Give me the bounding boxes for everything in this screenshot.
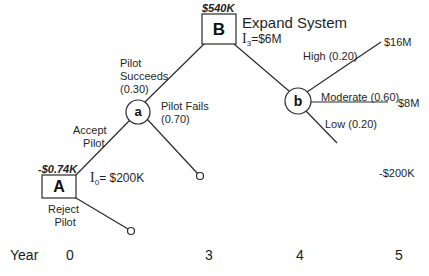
- node-b-chance-label: b: [285, 93, 311, 109]
- terminal-pilot-fails: [197, 173, 204, 180]
- reject-pilot-branch: [76, 198, 128, 229]
- year-tick-3: 3: [205, 247, 213, 263]
- high-label: High (0.20): [303, 50, 357, 63]
- pilot-fails-label: Pilot Fails(0.70): [161, 100, 209, 126]
- year-tick-0: 0: [66, 247, 74, 263]
- node-b-decision-label: B: [202, 20, 236, 40]
- expand-system-title: Expand System: [242, 14, 347, 31]
- high-payoff: $16M: [384, 36, 412, 49]
- node-b-value: $540K: [202, 2, 234, 14]
- node-a-value: -$0.74K: [38, 163, 77, 175]
- node-a-chance-label: a: [126, 104, 150, 119]
- pilot-fails-branch: [147, 119, 198, 174]
- low-payoff: -$200K: [379, 167, 414, 180]
- node-a-decision-label: A: [42, 178, 76, 196]
- year-tick-4: 4: [296, 247, 304, 263]
- reject-pilot-label: RejectPilot: [48, 203, 79, 229]
- year-tick-5: 5: [395, 247, 403, 263]
- accept-pilot-label: AcceptPilot: [73, 124, 107, 150]
- moderate-label: Moderate (0.60): [321, 91, 399, 104]
- pilot-succeeds-label: PilotSucceeds(0.30): [120, 57, 168, 96]
- investment-i0: I0= $200K: [90, 170, 144, 187]
- moderate-payoff: $8M: [398, 97, 419, 110]
- tree-lines: [0, 0, 429, 276]
- investment-i3: I3=$6M: [242, 31, 281, 48]
- terminal-reject-pilot: [128, 228, 135, 235]
- low-label: Low (0.20): [325, 118, 377, 131]
- expand-branch: [234, 44, 289, 91]
- timeline-label: Year: [10, 247, 38, 263]
